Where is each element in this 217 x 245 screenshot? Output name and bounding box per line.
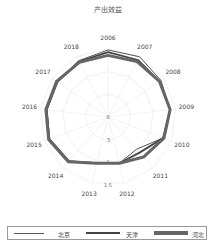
radial-tick-label: .5: [106, 137, 111, 143]
grid-spoke: [108, 117, 124, 183]
category-label: 2013: [81, 190, 96, 197]
category-label: 2009: [179, 103, 194, 110]
category-label: 2008: [165, 68, 180, 75]
legend-swatch-hebei: [154, 231, 188, 235]
legend-label-beijing: 北京: [58, 230, 70, 239]
grid-spoke: [76, 57, 108, 117]
grid-spoke: [108, 57, 140, 117]
legend-label-hebei: 河北: [192, 230, 204, 239]
series-line-0: [47, 50, 170, 163]
category-label: 2018: [64, 43, 79, 50]
legend-swatch-beijing: [14, 233, 44, 234]
category-label: 2017: [35, 68, 50, 75]
legend: 北京 天津 河北: [7, 226, 207, 240]
category-label: 2010: [174, 141, 189, 148]
grid-spoke: [63, 117, 108, 168]
legend-swatch-tianjin: [86, 232, 120, 234]
category-label: 2014: [48, 172, 63, 179]
legend-label-tianjin: 天津: [126, 230, 138, 239]
category-label: 2006: [100, 34, 115, 41]
grid-spoke: [92, 117, 108, 183]
radar-chart: 产出效益 0.511.5 200620072008200920102011201…: [0, 0, 217, 225]
category-label: 2007: [137, 43, 152, 50]
category-label: 2012: [119, 190, 134, 197]
grid-spoke: [44, 117, 108, 141]
radial-tick-label: 0: [106, 114, 109, 120]
grid: 0.511.5: [40, 49, 175, 188]
radial-tick-label: 1.5: [104, 182, 112, 188]
chart-title: 产出效益: [94, 5, 122, 14]
category-label: 2011: [153, 172, 168, 179]
grid-spoke: [108, 117, 172, 141]
category-label: 2015: [26, 141, 41, 148]
category-label: 2016: [22, 103, 37, 110]
